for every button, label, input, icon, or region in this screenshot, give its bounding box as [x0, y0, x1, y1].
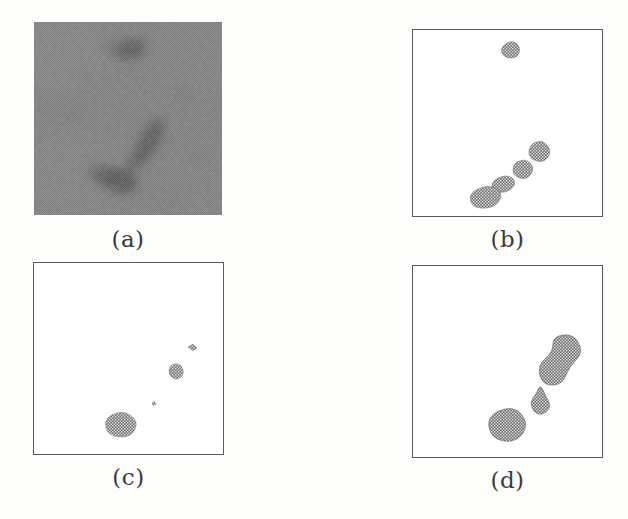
panel-d-frame	[412, 265, 603, 458]
blob-small-mid	[169, 364, 183, 379]
panel-b-frame	[412, 29, 603, 217]
panel-c-caption: (c)	[33, 466, 224, 489]
blob-large-lower	[106, 412, 137, 437]
panel-b: (b)	[412, 29, 603, 217]
blob-chain-upper	[529, 141, 550, 161]
panel-c-image	[34, 263, 224, 455]
panel-a-caption: (a)	[34, 228, 222, 251]
panel-b-image	[413, 30, 603, 217]
figure-root: (a)	[0, 0, 628, 519]
blob-chain-mid	[513, 160, 533, 178]
panel-a: (a)	[34, 22, 222, 215]
panel-d-caption: (d)	[412, 469, 603, 492]
panel-c: (c)	[33, 262, 224, 455]
panel-a-frame	[34, 22, 222, 215]
panel-c-frame	[33, 262, 224, 455]
blob-bottom-round	[489, 409, 526, 442]
panel-d: (d)	[412, 265, 603, 458]
panel-d-image	[413, 266, 603, 458]
panel-a-image	[34, 22, 222, 215]
panel-b-caption: (b)	[412, 228, 603, 251]
